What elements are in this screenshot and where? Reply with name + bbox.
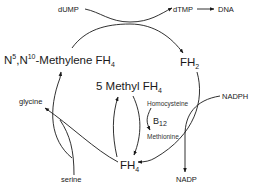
- node-b12: B12: [153, 116, 167, 127]
- arrow-methyl-to-fh4: [133, 96, 140, 155]
- node-fh4: FH4: [120, 159, 139, 173]
- arrow-fh4-to-methyl: [113, 97, 118, 157]
- arrow-dump-to-dtmp: [85, 8, 172, 22]
- arrow-fh2-to-fh4-head: [138, 158, 155, 162]
- node-homocysteine: Homocysteine: [147, 100, 189, 108]
- arrow-methylene-to-fh2: [72, 24, 183, 53]
- node-dna: DNA: [218, 5, 234, 14]
- node-methionine: Methionine: [147, 133, 179, 140]
- node-methylene-fh4: N5,N10-Methylene FH4: [4, 53, 115, 68]
- arrow-fh4-to-methylene-arc: [53, 78, 72, 158]
- node-serine: serine: [61, 175, 81, 184]
- node-dump: dUMP: [58, 5, 79, 14]
- arrow-nadph-to-nadp: [185, 96, 220, 172]
- node-nadph: NADPH: [222, 92, 248, 101]
- arrow-homocysteine-to-methionine: [147, 108, 151, 130]
- node-nadp: NADP: [176, 175, 197, 184]
- arrow-fh2-to-fh4-outer: [155, 72, 200, 158]
- node-fh2: FH2: [180, 56, 199, 70]
- node-dtmp: dTMP: [173, 5, 193, 14]
- node-5-methyl-fh4: 5 Methyl FH4: [96, 80, 162, 94]
- node-glycine: glycine: [19, 97, 42, 106]
- arrow-fh4-to-methylene-head: [60, 72, 61, 78]
- folate-cycle-diagram: dUMP dTMP DNA N5,N10-Methylene FH4 FH2 N…: [0, 0, 267, 186]
